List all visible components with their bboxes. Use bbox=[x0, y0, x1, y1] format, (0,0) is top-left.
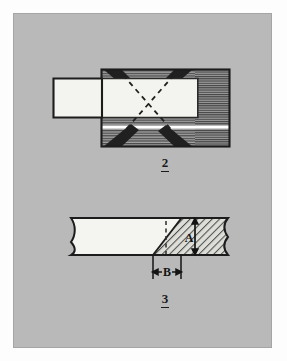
figure-2-group bbox=[53, 69, 230, 147]
dimension-a-label: A bbox=[181, 231, 197, 246]
figure-2-caption: 2 bbox=[145, 155, 185, 172]
figure-2-caption-text: 2 bbox=[161, 156, 170, 172]
drawing-plate: A B 2 3 bbox=[13, 13, 272, 348]
tongue-protruding bbox=[54, 79, 103, 118]
figure-3-group bbox=[71, 218, 228, 279]
figure-3-caption: 3 bbox=[145, 291, 185, 308]
dimension-b-label: B bbox=[159, 265, 175, 280]
figure-2-drawing bbox=[13, 13, 272, 348]
figure-3-caption-text: 3 bbox=[161, 292, 170, 308]
end-grain-block bbox=[195, 69, 230, 147]
